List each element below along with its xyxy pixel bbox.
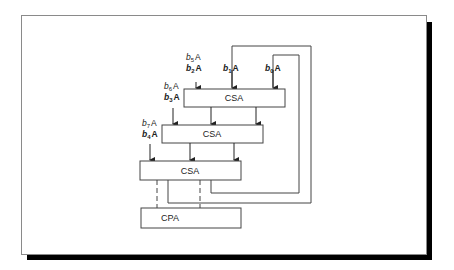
input-label-b1a: b1A (223, 63, 239, 74)
input-label-b4a: b4A (142, 129, 158, 140)
csa-mid-label: CSA (203, 129, 222, 139)
input-label-b2a: b2A (186, 63, 202, 74)
csa-top-label: CSA (225, 93, 244, 103)
cpa-label: CPA (161, 213, 179, 223)
input-label-b5a: b5A (186, 52, 201, 63)
csa-bot-label: CSA (181, 166, 200, 176)
input-label-b7a: b7A (142, 118, 157, 129)
cpa-block (141, 208, 241, 228)
input-label-b3a: b3A (164, 92, 180, 103)
csa-tree-diagram: CSA CSA CSA CPA b5A b2A b1A b0A b6A b3A … (0, 0, 454, 270)
input-label-b6a: b6A (164, 81, 179, 92)
